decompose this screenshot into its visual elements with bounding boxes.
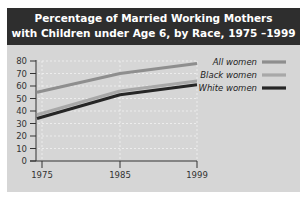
y-tick-label: 80 <box>16 56 27 66</box>
y-tick-label: 30 <box>16 119 27 129</box>
y-tick-label: 10 <box>16 144 27 154</box>
series-line-white-women <box>37 85 197 119</box>
y-tick-label: 50 <box>16 94 27 104</box>
line-chart: 01020304050607080197519851999All womenBl… <box>0 0 307 198</box>
y-tick-label: 0 <box>22 156 27 166</box>
y-tick-label: 20 <box>16 131 27 141</box>
legend-label: Black women <box>200 70 257 80</box>
x-tick-label: 1975 <box>31 170 53 180</box>
y-tick-label: 60 <box>16 81 27 91</box>
y-tick-label: 70 <box>16 69 27 79</box>
x-tick-label: 1985 <box>109 170 131 180</box>
y-tick-label: 40 <box>16 106 27 116</box>
x-tick-label: 1999 <box>186 170 208 180</box>
legend-label: All women <box>212 57 257 67</box>
legend-label: White women <box>199 83 257 93</box>
